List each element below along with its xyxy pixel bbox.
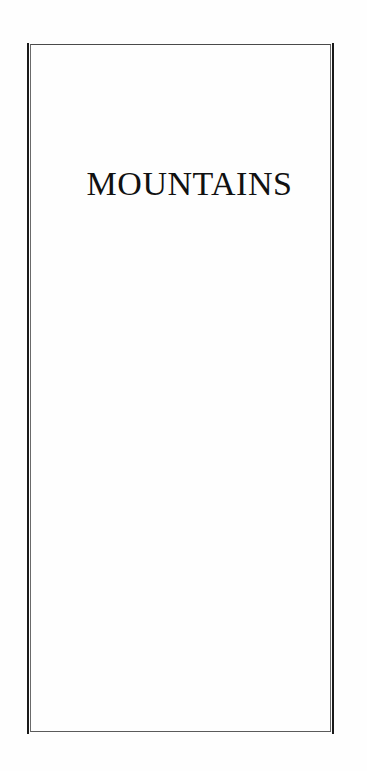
frame-outer-left-rule (27, 43, 29, 734)
document-page: MOUNTAINS (0, 0, 367, 771)
page-title: MOUNTAINS (0, 164, 367, 204)
frame-inner-border (30, 44, 331, 732)
frame-outer-right-rule (332, 43, 334, 734)
